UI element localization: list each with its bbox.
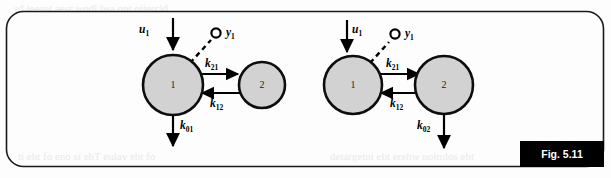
label-u1-right: u1	[352, 23, 362, 38]
label-k21-left: k21	[205, 57, 219, 72]
label-k01-left: k01	[180, 119, 194, 134]
node-label-1-right: 1	[351, 79, 356, 90]
node-label-1-left: 1	[171, 79, 176, 90]
output-marker-y1-right	[390, 29, 399, 38]
node-label-2-right: 2	[442, 79, 447, 90]
diagram-right-model: u1 y1 k21 k12 k02 1 2	[324, 20, 473, 148]
label-y1-left: y1	[224, 26, 235, 41]
output-marker-y1-left	[211, 28, 220, 37]
label-y1-right: y1	[403, 27, 414, 42]
label-k12-left: k12	[210, 97, 224, 112]
figure-panel-border	[7, 12, 604, 167]
node-label-2-left: 2	[260, 79, 265, 90]
label-k21-right: k21	[386, 57, 400, 72]
label-u1-left: u1	[139, 23, 149, 38]
figure-svg: u1 y1 k21 k12 k01 1 2 u1	[0, 0, 611, 178]
figure-tag: Fig. 5.11	[520, 141, 604, 167]
diagram-left-model: u1 y1 k21 k12 k01 1 2	[139, 18, 285, 146]
figure-container: sd ieesnt aesr wodl hsa ont oitercid ti …	[0, 0, 611, 178]
label-k02-right: k02	[417, 119, 431, 134]
label-k12-right: k12	[390, 97, 404, 112]
figure-tag-label: Fig. 5.11	[541, 148, 583, 160]
